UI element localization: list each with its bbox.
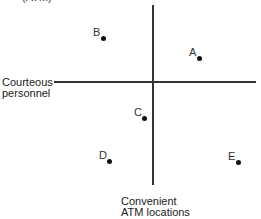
vertical-axis-label: Convenient ATM locations [121,196,190,218]
point-a: A [199,58,200,59]
point-b: B [103,38,104,39]
perceptual-map: (ATM) Courteous personnel Convenient ATM… [0,0,261,219]
point-e-dot-icon [236,160,241,165]
point-c: C [144,118,145,119]
point-e-label: E [228,151,235,162]
point-a-label: A [189,47,196,58]
point-c-label: C [134,107,142,118]
point-d: D [109,161,110,162]
point-d-dot-icon [107,159,112,164]
point-c-dot-icon [142,116,147,121]
point-a-dot-icon [197,56,202,61]
point-d-label: D [99,150,107,161]
vertical-axis-label-line-2: ATM locations [121,207,190,218]
point-e: E [238,162,239,163]
point-b-label: B [93,27,100,38]
horizontal-axis [54,81,256,83]
horizontal-axis-label-line-2: personnel [2,88,53,99]
point-b-dot-icon [101,36,106,41]
vertical-axis [152,5,154,185]
horizontal-axis-label: Courteous personnel [2,77,53,99]
cropped-title-fragment: (ATM) [22,0,52,3]
